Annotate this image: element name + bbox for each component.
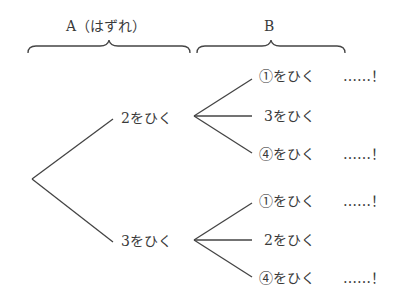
leaf-1-1: 2をひく xyxy=(264,232,315,248)
brace-a xyxy=(28,40,190,53)
leaf-mark-1-2: ……！ xyxy=(343,270,385,286)
leaf-0-1: 3をひく xyxy=(264,108,315,124)
node-l1-1: 3をひく xyxy=(121,233,172,249)
leaf-mark-0-0: ……！ xyxy=(343,68,385,84)
leaf-mark-1-0: ……！ xyxy=(343,193,385,209)
brace-b xyxy=(197,40,345,53)
leaf-mark-0-2: ……！ xyxy=(343,146,385,162)
leaf-0-0: ①をひく xyxy=(259,68,315,84)
node-l1-0: 2をひく xyxy=(121,110,172,126)
header-b: B xyxy=(264,18,274,34)
leaf-0-2: ④をひく xyxy=(259,146,315,162)
header-a: A（はずれ） xyxy=(66,18,146,34)
leaf-1-0: ①をひく xyxy=(259,193,315,209)
leaf-1-2: ④をひく xyxy=(259,270,315,286)
